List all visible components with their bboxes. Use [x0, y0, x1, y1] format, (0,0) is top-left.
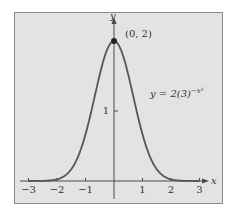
chart: x y −3−2−1123 1 (0, 2) y = 2(3)−x² — [0, 0, 234, 216]
x-tick-label: −3 — [21, 184, 36, 195]
x-tick-label: −1 — [78, 184, 93, 195]
plot-frame — [15, 13, 223, 204]
x-tick-label: 1 — [139, 184, 145, 195]
peak-point-label: (0, 2) — [125, 28, 152, 39]
y-tick-label: 1 — [103, 105, 109, 116]
equation-label-exponent: −x² — [191, 87, 204, 95]
x-tick-label: 3 — [196, 184, 202, 195]
equation-label-main: y = 2(3) — [149, 88, 191, 99]
peak-point-marker — [111, 38, 117, 44]
x-tick-label: 2 — [168, 184, 174, 195]
x-axis-label: x — [211, 175, 217, 186]
x-tick-label: −2 — [50, 184, 65, 195]
y-axis-label: y — [109, 10, 116, 21]
